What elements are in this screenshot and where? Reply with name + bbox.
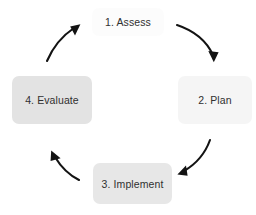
connector-assess-to-plan — [177, 25, 219, 62]
cycle-diagram: 1. Assess 2. Plan 3. Implement 4. Evalua… — [0, 0, 256, 215]
cycle-node-plan[interactable]: 2. Plan — [178, 76, 252, 124]
cycle-node-assess-label: 1. Assess — [105, 16, 151, 28]
cycle-node-evaluate-label: 4. Evaluate — [25, 94, 79, 106]
cycle-node-assess[interactable]: 1. Assess — [92, 8, 164, 36]
cycle-node-plan-label: 2. Plan — [198, 94, 231, 106]
cycle-node-implement-label: 3. Implement — [102, 178, 164, 190]
connector-implement-to-evaluate — [51, 151, 79, 180]
connector-evaluate-to-assess — [47, 24, 80, 61]
connector-plan-to-implement — [177, 140, 210, 176]
cycle-node-evaluate[interactable]: 4. Evaluate — [12, 76, 92, 124]
cycle-node-implement[interactable]: 3. Implement — [93, 163, 172, 204]
